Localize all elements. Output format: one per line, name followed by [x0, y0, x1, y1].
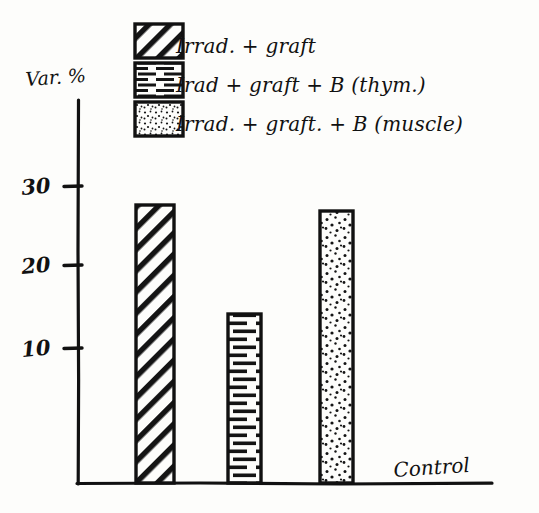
y-tick-20 — [64, 265, 82, 266]
y-axis-title: Var. % — [25, 64, 87, 90]
control-label: Control — [393, 453, 471, 482]
y-tick-10 — [64, 348, 82, 349]
y-tick-label-20: 20 — [19, 251, 52, 279]
legend-item-irad-graft-b-thym: Irad + graft + B (thym.) — [135, 63, 426, 97]
legend-label-2: Irad + graft + B (thym.) — [175, 73, 426, 97]
hand-drawn-bar-chart: Irrad. + graft Irad + graft + B (thym.) … — [0, 0, 539, 513]
y-tick-label-30: 30 — [20, 172, 52, 199]
legend: Irrad. + graft Irad + graft + B (thym.) … — [135, 24, 463, 136]
legend-label-3: Irrad. + graft. + B (muscle) — [175, 112, 463, 136]
bar-irrad-graft — [136, 205, 174, 483]
bars-group — [136, 205, 353, 483]
bar-irad-graft-b-thym — [228, 314, 261, 483]
bar-irrad-graft-b-muscle — [320, 211, 353, 483]
legend-item-irrad-graft: Irrad. + graft — [135, 24, 317, 58]
y-axis-line — [78, 100, 79, 484]
y-tick-30 — [64, 186, 82, 187]
legend-item-irrad-graft-b-muscle: Irrad. + graft. + B (muscle) — [135, 102, 463, 136]
y-tick-label-10: 10 — [20, 334, 52, 361]
legend-label-1: Irrad. + graft — [175, 34, 317, 58]
